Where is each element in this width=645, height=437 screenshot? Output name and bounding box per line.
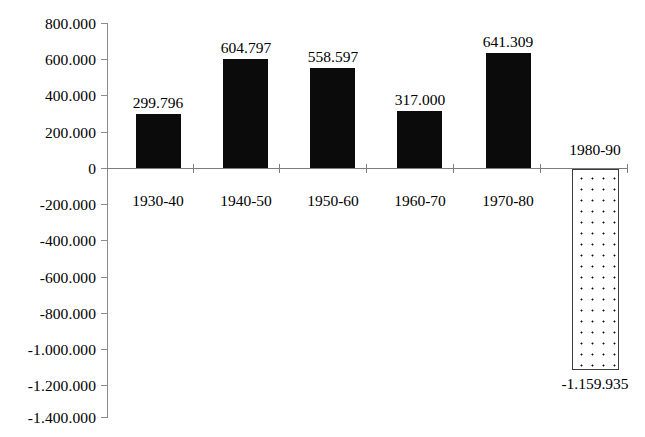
x-axis-category-label: 1950-60 xyxy=(283,193,383,209)
x-axis-tick xyxy=(279,164,280,173)
x-axis-category-label: 1930-40 xyxy=(108,193,208,209)
x-axis-tick xyxy=(540,164,541,173)
x-axis-tick xyxy=(627,164,628,173)
x-axis-tick xyxy=(366,164,367,173)
y-axis-tick xyxy=(101,385,108,386)
y-axis-label: -1.000.000 xyxy=(0,342,96,358)
y-axis-tick xyxy=(101,23,108,24)
y-axis-label: -600.000 xyxy=(0,270,96,286)
y-axis-label: 0 xyxy=(0,161,96,177)
bar-1970-80 xyxy=(486,53,531,168)
bar-value-label: 641.309 xyxy=(458,34,558,50)
y-axis-label: -200.000 xyxy=(0,197,96,213)
y-axis-tick xyxy=(101,240,108,241)
x-axis-category-label: 1960-70 xyxy=(370,193,470,209)
y-axis-tick xyxy=(101,95,108,96)
y-axis-label: 400.000 xyxy=(0,88,96,104)
y-axis-label: -1.200.000 xyxy=(0,378,96,394)
bar-value-label: 299.796 xyxy=(108,95,208,111)
bar-value-label: 604.797 xyxy=(196,40,296,56)
y-axis-label: 600.000 xyxy=(0,52,96,68)
bar-1980-90 xyxy=(572,169,619,370)
y-axis-label: -1.400.000 xyxy=(0,410,96,426)
bar-1950-60 xyxy=(310,68,355,168)
y-axis-tick xyxy=(101,132,108,133)
y-axis-label: 800.000 xyxy=(0,16,96,32)
x-axis-tick xyxy=(453,164,454,173)
y-axis-label: -800.000 xyxy=(0,306,96,322)
y-axis-tick xyxy=(101,59,108,60)
bar-1940-50 xyxy=(223,59,268,168)
x-axis-category-label: 1970-80 xyxy=(458,193,558,209)
zero-baseline xyxy=(107,168,628,169)
x-axis-category-label: 1980-90 xyxy=(545,142,645,158)
x-axis-category-label: 1940-50 xyxy=(196,193,296,209)
x-axis-tick xyxy=(193,164,194,173)
bar-value-label: -1.159.935 xyxy=(535,376,645,392)
bar-1930-40 xyxy=(136,114,181,168)
y-axis-tick xyxy=(101,277,108,278)
y-axis-tick xyxy=(101,417,108,418)
y-axis-line xyxy=(107,23,108,417)
y-axis-tick xyxy=(101,313,108,314)
bar-value-label: 317.000 xyxy=(370,92,470,108)
bar-chart: 800.000 600.000 400.000 200.000 0 -200.0… xyxy=(0,0,645,437)
bar-value-label: 558.597 xyxy=(283,49,383,65)
y-axis-label: 200.000 xyxy=(0,125,96,141)
y-axis-tick xyxy=(101,204,108,205)
bar-1960-70 xyxy=(397,111,442,168)
y-axis-label: -400.000 xyxy=(0,233,96,249)
y-axis-tick xyxy=(101,349,108,350)
